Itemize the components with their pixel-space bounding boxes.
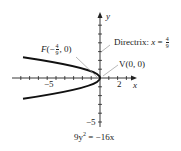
focus-fraction: 49 [56, 43, 59, 56]
focus-label: F(−49, 0) [41, 43, 72, 56]
x-axis-label: x [133, 81, 137, 90]
y-axis-label: y [106, 12, 110, 21]
directrix-fraction: 49 [166, 36, 169, 49]
directrix-label: Directrix: x = 49 [114, 36, 170, 49]
x-tick-label-neg5: −5 [44, 80, 54, 89]
equation-label: 9y2 = −16x [74, 131, 114, 142]
y-tick-label-neg5: −5 [86, 118, 96, 127]
parabola-plot [0, 0, 181, 151]
y-axis-arrow-icon [98, 12, 103, 18]
x-tick-label-2: 2 [117, 80, 122, 89]
directrix-leader-line [101, 45, 110, 52]
vertex-leader-line [103, 65, 118, 76]
vertex-label: V(0, 0) [119, 60, 145, 69]
